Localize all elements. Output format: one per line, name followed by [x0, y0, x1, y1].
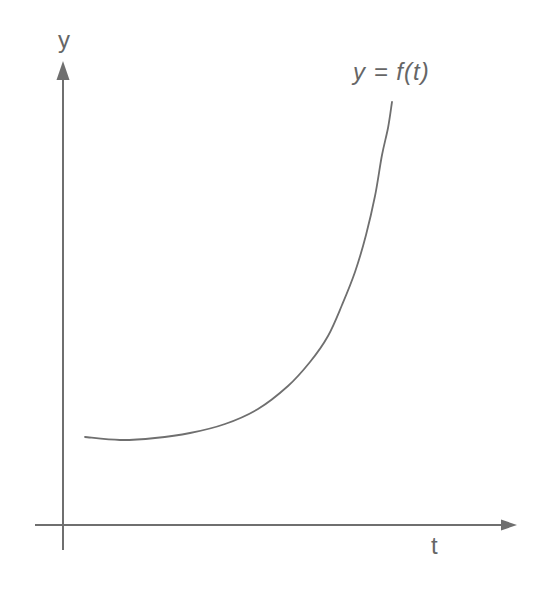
x-axis [35, 520, 517, 531]
x-axis-arrowhead-icon [501, 520, 517, 531]
y-axis-label: y [58, 28, 70, 52]
curve-label: y = f(t) [353, 58, 430, 87]
plot-svg [0, 0, 543, 590]
y-axis-arrowhead-icon [57, 61, 70, 80]
x-axis-label: t [431, 534, 438, 558]
y-axis [57, 61, 70, 550]
function-graph-figure: y t y = f(t) [0, 0, 543, 590]
curve-path [85, 102, 392, 440]
